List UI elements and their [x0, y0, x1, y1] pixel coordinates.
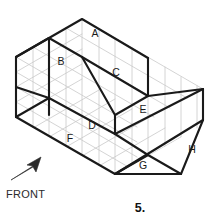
surface-label-d: D — [88, 119, 96, 131]
isometric-figure-container: A B C D E F G H FRONT 5. — [0, 0, 212, 219]
surface-label-a: A — [91, 27, 98, 39]
front-label: FRONT — [6, 188, 45, 200]
isometric-drawing-svg: A B C D E F G H FRONT 5. — [0, 0, 212, 219]
surface-label-b: B — [57, 55, 64, 67]
surface-label-h: H — [188, 143, 196, 155]
surface-label-f: F — [67, 132, 73, 144]
figure-number-label: 5. — [135, 201, 145, 215]
surface-label-e: E — [139, 103, 146, 115]
surface-label-c: C — [112, 66, 120, 78]
surface-label-g: G — [139, 159, 147, 171]
